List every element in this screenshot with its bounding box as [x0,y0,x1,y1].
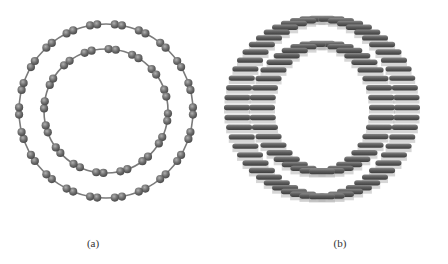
carbon-atom [155,139,163,147]
carbon-atom [48,39,56,47]
atom-row [393,95,419,100]
carbon-atom [116,167,124,175]
atom-row [369,168,395,173]
atom-row [229,75,255,80]
atom-row [381,57,407,62]
atom-row [249,105,275,110]
carbon-atom [177,63,185,71]
atom-row [237,152,263,157]
carbon-atom [41,97,49,105]
carbon-atom [63,184,71,192]
carbon-atom [42,170,50,178]
carbon-atom [138,157,146,165]
panel-a-cross-section [15,20,197,201]
atom-row [309,169,335,174]
carbon-atom [93,193,101,201]
atom-row [344,157,370,162]
carbon-atom [184,79,192,87]
atom-row [250,115,276,120]
atom-row [226,85,252,90]
atom-row [392,125,418,130]
panel-b-label: (b) [334,237,347,249]
atom-row [381,152,407,157]
carbon-atom [40,104,48,112]
carbon-atom [189,103,197,111]
atom-row [375,160,401,165]
carbon-atom [189,111,197,119]
atom-row [386,66,412,71]
atom-row [362,76,388,81]
atom-row [232,66,258,71]
atom-row [267,150,293,155]
atom-row [369,42,395,47]
carbon-atom [20,79,28,87]
carbon-atom [186,128,194,136]
atom-row [368,95,394,100]
carbon-atom [69,26,77,34]
carbon-atom [186,86,194,94]
atom-row [249,168,275,173]
atom-row [351,150,377,155]
carbon-atom [118,192,126,200]
atom-row [243,160,269,165]
atom-row [282,48,308,53]
atom-row [256,76,282,81]
carbon-atom [99,169,107,177]
atom-row [256,174,282,179]
carbon-atom [164,110,172,118]
atom-row [394,105,420,110]
panel-b-perspective-view [224,16,420,203]
carbon-atom [17,86,25,94]
atom-row [256,134,282,139]
atom-row [309,194,335,199]
atom-row [392,85,418,90]
atom-row [369,105,395,110]
atom-row [264,29,290,34]
atom-row [375,49,401,54]
carbon-atom [17,128,25,136]
carbon-atom [173,157,181,165]
carbon-atom [156,175,164,183]
carbon-atom [184,135,192,143]
carbon-atom [52,143,60,151]
carbon-atom [31,57,39,65]
atom-row [368,115,394,120]
atom-row [274,157,300,162]
atom-row [354,29,380,34]
atom-row [229,134,255,139]
atom-row [256,35,282,40]
carbon-atom [111,20,119,28]
carbon-atom [66,57,74,65]
atom-row [366,85,392,90]
atom-row [362,35,388,40]
carbon-atom [86,192,94,200]
carbon-atom [112,46,120,54]
carbon-atom [42,121,50,129]
atom-row [358,142,384,147]
atom-row [224,105,250,110]
atom-row [386,143,412,148]
atom-row [260,142,286,147]
atom-row [336,48,362,53]
atom-row [366,125,392,130]
carbon-atom [111,193,119,201]
ring-inner-tube [40,45,172,177]
atom-row [250,95,276,100]
atom-row [267,60,293,65]
atom-row [358,67,384,72]
carbon-atom [92,168,100,176]
atom-row [393,115,419,120]
atom-row [346,25,372,30]
atom-row [225,115,251,120]
tube-inner-tube [249,41,395,178]
carbon-atom [49,74,57,82]
carbon-atom [87,47,95,55]
carbon-atom [15,111,23,119]
atom-row [226,125,252,130]
carbon-atom [134,54,142,62]
atom-row [237,57,263,62]
atom-row [232,143,258,148]
atom-row [264,180,290,185]
atom-row [389,134,415,139]
carbon-atom [118,21,126,29]
